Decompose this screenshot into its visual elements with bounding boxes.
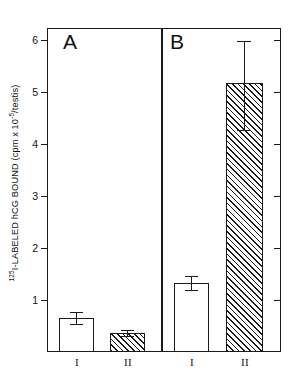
panel-divider bbox=[161, 28, 163, 352]
error-bar-cap-lower-panel-a-group-ii bbox=[121, 336, 134, 337]
y-tick-label-6: 6 bbox=[14, 34, 38, 46]
error-bar-cap-lower-panel-a-group-i bbox=[70, 324, 83, 325]
x-tick-label-panel-b-group-i: I bbox=[172, 356, 212, 368]
x-tick-label-panel-b-group-ii: II bbox=[225, 356, 265, 368]
y-tick-2-right bbox=[274, 248, 281, 249]
y-tick-label-3: 3 bbox=[14, 190, 38, 202]
error-bar-cap-lower-panel-b-group-ii bbox=[237, 130, 251, 131]
error-bar-cap-upper-panel-a-group-ii bbox=[121, 330, 134, 331]
error-bar-stem-panel-b-group-ii bbox=[244, 41, 245, 131]
chart-figure: 125I-LABELED hCG BOUND (cpm x 10-5/testi… bbox=[0, 0, 288, 382]
y-tick-label-1: 1 bbox=[14, 294, 38, 306]
y-tick-5-right bbox=[274, 92, 281, 93]
y-tick-label-2: 2 bbox=[14, 242, 38, 254]
panel-label-a: A bbox=[63, 30, 77, 54]
y-tick-label-5: 5 bbox=[14, 86, 38, 98]
bar-panel-b-group-i bbox=[174, 283, 209, 352]
y-tick-6-left bbox=[41, 40, 48, 41]
y-tick-5-left bbox=[41, 92, 48, 93]
error-bar-cap-upper-panel-a-group-i bbox=[70, 312, 83, 313]
panel-label-b: B bbox=[170, 30, 184, 54]
y-tick-label-4: 4 bbox=[14, 138, 38, 150]
x-tick-label-panel-a-group-ii: II bbox=[108, 356, 148, 368]
error-bar-cap-lower-panel-b-group-i bbox=[185, 290, 198, 291]
y-tick-1-right bbox=[274, 300, 281, 301]
y-tick-2-left bbox=[41, 248, 48, 249]
x-tick-label-panel-a-group-i: I bbox=[57, 356, 97, 368]
y-tick-6-right bbox=[274, 40, 281, 41]
y-axis-title-isotope-superscript: 125 bbox=[8, 270, 15, 281]
y-tick-4-right bbox=[274, 144, 281, 145]
y-tick-3-right bbox=[274, 196, 281, 197]
error-bar-stem-panel-a-group-i bbox=[76, 312, 77, 324]
error-bar-stem-panel-b-group-i bbox=[191, 276, 192, 290]
error-bar-cap-upper-panel-b-group-ii bbox=[237, 41, 251, 42]
y-tick-1-left bbox=[41, 300, 48, 301]
y-axis-title-exponent-superscript: -5 bbox=[8, 113, 15, 119]
y-tick-3-left bbox=[41, 196, 48, 197]
error-bar-cap-upper-panel-b-group-i bbox=[185, 276, 198, 277]
y-tick-4-left bbox=[41, 144, 48, 145]
